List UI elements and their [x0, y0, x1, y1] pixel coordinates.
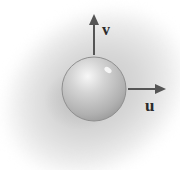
- diagram-canvas: v u: [0, 0, 180, 170]
- vector-label-u: u: [145, 96, 154, 116]
- sphere: [44, 57, 126, 130]
- diagram-graphics: [0, 0, 180, 170]
- arrow-u-icon: [128, 84, 166, 94]
- vector-label-v: v: [102, 21, 110, 39]
- arrow-v-icon: [89, 14, 99, 55]
